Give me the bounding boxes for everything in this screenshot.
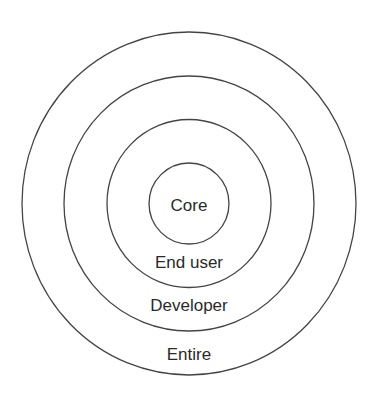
ring-entire-label: Entire xyxy=(167,345,211,364)
ring-developer-label: Developer xyxy=(150,296,228,315)
concentric-layers-diagram: Entire Developer End user Core xyxy=(0,0,378,396)
ring-core-label: Core xyxy=(171,196,208,215)
ring-core: Core xyxy=(149,163,229,244)
ring-end-user-label: End user xyxy=(155,253,223,272)
